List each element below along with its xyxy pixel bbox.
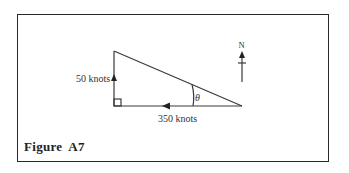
left-arrow-icon (162, 103, 170, 110)
vertical-side-label: 50 knots (76, 73, 110, 84)
up-arrow-icon (111, 74, 117, 81)
triangle (114, 51, 242, 106)
right-angle-marker (114, 99, 121, 106)
north-label: N (239, 40, 245, 50)
hypotenuse (114, 51, 242, 106)
angle-label: θ (195, 92, 200, 103)
horizontal-side-label: 350 knots (158, 113, 197, 124)
angle-arc (192, 85, 194, 107)
north-arrow-icon (238, 51, 246, 82)
figure-caption: Figure A7 (24, 139, 85, 155)
